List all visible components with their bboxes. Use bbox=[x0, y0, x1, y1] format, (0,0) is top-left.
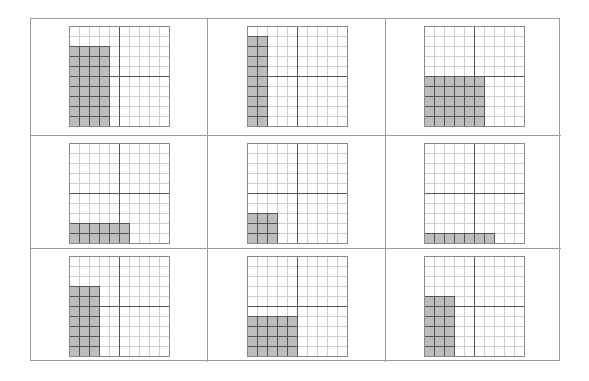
table-cell bbox=[31, 249, 208, 362]
hundred-grid bbox=[69, 143, 170, 244]
table-cell bbox=[208, 136, 386, 249]
table-cell bbox=[386, 136, 561, 249]
hundred-grid bbox=[69, 256, 170, 357]
table-cell bbox=[31, 19, 208, 136]
table-cell bbox=[208, 249, 386, 362]
table-cell bbox=[208, 19, 386, 136]
hundred-grid bbox=[247, 256, 348, 357]
hundred-grid bbox=[424, 256, 525, 357]
array-worksheet-table bbox=[30, 18, 560, 361]
hundred-grid bbox=[424, 26, 525, 127]
shaded-array bbox=[248, 214, 278, 244]
hundred-grid bbox=[424, 143, 525, 244]
table-cell bbox=[386, 19, 561, 136]
hundred-grid bbox=[69, 26, 170, 127]
table-cell bbox=[386, 249, 561, 362]
hundred-grid bbox=[247, 143, 348, 244]
table-cell bbox=[31, 136, 208, 249]
hundred-grid bbox=[247, 26, 348, 127]
